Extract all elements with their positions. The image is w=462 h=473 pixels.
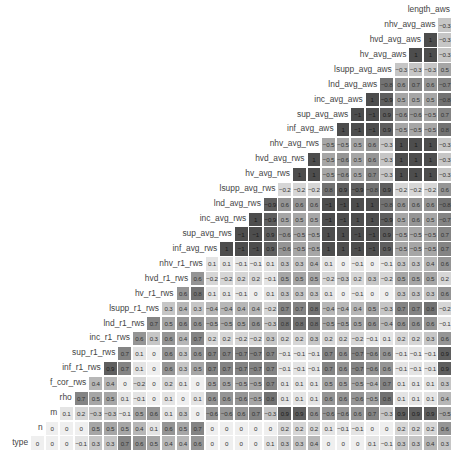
heatmap-cell: 0.6 xyxy=(307,197,322,212)
heatmap-cell: 0.3 xyxy=(307,331,322,346)
heatmap-cell: −0.1 xyxy=(394,346,409,361)
heatmap-cell: 0.4 xyxy=(423,435,438,450)
heatmap-cell: 1 xyxy=(394,137,409,152)
heatmap-cell: 0.7 xyxy=(205,361,220,376)
heatmap-cell: 0.3 xyxy=(161,301,176,316)
heatmap-cell: 0.2 xyxy=(292,421,307,436)
heatmap-cell: 0.3 xyxy=(408,435,423,450)
heatmap-cell: −0.9 xyxy=(263,197,278,212)
heatmap-cell: 0 xyxy=(248,435,263,450)
heatmap-cell: 0 xyxy=(146,376,161,391)
heatmap-cell: −0.5 xyxy=(248,376,263,391)
heatmap-cell: 0.8 xyxy=(263,391,278,406)
heatmap-cell: −0.1 xyxy=(408,361,423,376)
heatmap-cell: 0.5 xyxy=(408,92,423,107)
heatmap-cell: −1 xyxy=(248,226,263,241)
heatmap-cell: 0.7 xyxy=(379,376,394,391)
heatmap-cell: 0 xyxy=(263,421,278,436)
heatmap-cell: 0.4 xyxy=(307,435,322,450)
heatmap-cell: −0.5 xyxy=(234,376,249,391)
heatmap-cell: 0.2 xyxy=(234,271,249,286)
heatmap-cell: 0.1 xyxy=(394,376,409,391)
heatmap-cell: 0.5 xyxy=(292,212,307,227)
heatmap-cell: 1 xyxy=(394,167,409,182)
heatmap-cell: −0.3 xyxy=(336,271,351,286)
heatmap-cell: 1 xyxy=(350,212,365,227)
heatmap-cell: 0.9 xyxy=(277,406,292,421)
heatmap-cell: −1 xyxy=(365,226,380,241)
heatmap-cell: 1 xyxy=(336,241,351,256)
heatmap-cell: 0 xyxy=(336,286,351,301)
heatmap-cell: 0.3 xyxy=(176,346,191,361)
heatmap-cell: 0.3 xyxy=(292,435,307,450)
heatmap-cell: −0.1 xyxy=(336,421,351,436)
heatmap-cell: −0.5 xyxy=(248,391,263,406)
heatmap-cell: −1 xyxy=(234,226,249,241)
heatmap-cell: 0.2 xyxy=(437,271,452,286)
heatmap-cell: 0.1 xyxy=(146,421,161,436)
heatmap-cell: 0.1 xyxy=(263,256,278,271)
heatmap-cell: −0.1 xyxy=(365,331,380,346)
heatmap-cell: 1 xyxy=(408,47,423,62)
heatmap-cell: −0.1 xyxy=(307,361,322,376)
heatmap-cell: −1 xyxy=(321,197,336,212)
row-label: lnd_r1_rws xyxy=(103,316,144,331)
heatmap-cell: −0.5 xyxy=(321,137,336,152)
heatmap-cell: 0.7 xyxy=(277,301,292,316)
heatmap-cell: −0.5 xyxy=(408,226,423,241)
heatmap-cell: 0.1 xyxy=(321,421,336,436)
heatmap-cell: −0.4 xyxy=(219,301,234,316)
heatmap-cell: 0 xyxy=(365,421,380,436)
heatmap-cell: 0.3 xyxy=(394,286,409,301)
heatmap-cell: −0.5 xyxy=(307,241,322,256)
heatmap-cell: −0.1 xyxy=(234,286,249,301)
heatmap-cell: 0.2 xyxy=(292,331,307,346)
heatmap-cell: −0.2 xyxy=(234,331,249,346)
heatmap-cell: 0.2 xyxy=(161,376,176,391)
heatmap-cell: −0.2 xyxy=(423,182,438,197)
heatmap-cell: −0.4 xyxy=(336,301,351,316)
heatmap-cell: −0.5 xyxy=(321,167,336,182)
heatmap-cell: 0 xyxy=(190,406,205,421)
heatmap-cell: 0 xyxy=(379,286,394,301)
heatmap-cell: −0.3 xyxy=(379,167,394,182)
heatmap-cell: 0.2 xyxy=(394,331,409,346)
heatmap-cell: 0.6 xyxy=(437,182,452,197)
heatmap-cell: −0.5 xyxy=(307,226,322,241)
heatmap-cell: −0.2 xyxy=(205,271,220,286)
heatmap-cell: 0.9 xyxy=(408,406,423,421)
heatmap-cell: −0.7 xyxy=(248,346,263,361)
heatmap-cell: 0.2 xyxy=(394,421,409,436)
heatmap-cell: 0.7 xyxy=(263,361,278,376)
row-label: inf_avg_aws xyxy=(287,121,334,136)
row-label: hvd_avg_rws xyxy=(255,151,304,166)
heatmap-cell: −0.5 xyxy=(336,316,351,331)
heatmap-cell: 0.6 xyxy=(321,391,336,406)
heatmap-cell: 0 xyxy=(336,435,351,450)
heatmap-cell: −0.2 xyxy=(350,331,365,346)
heatmap-cell: −0.9 xyxy=(379,212,394,227)
heatmap-cell: 0.6 xyxy=(190,271,205,286)
heatmap-cell: 0 xyxy=(248,421,263,436)
heatmap-cell: 0.2 xyxy=(277,421,292,436)
heatmap-cell: 0.5 xyxy=(350,167,365,182)
heatmap-cell: −1 xyxy=(350,226,365,241)
heatmap-cell: 0.5 xyxy=(350,152,365,167)
heatmap-cell: −0.1 xyxy=(408,346,423,361)
heatmap-cell: −0.1 xyxy=(379,256,394,271)
heatmap-cell: 0.1 xyxy=(205,256,220,271)
heatmap-cell: 0.8 xyxy=(379,391,394,406)
heatmap-cell: 0.1 xyxy=(205,286,220,301)
heatmap-cell: 0.2 xyxy=(336,331,351,346)
heatmap-cell: 0.6 xyxy=(176,316,191,331)
heatmap-cell: 0.6 xyxy=(132,331,147,346)
row-label: inf_r1_rws xyxy=(62,360,101,375)
heatmap-cell: 0.6 xyxy=(394,77,409,92)
heatmap-cell: −0.5 xyxy=(336,137,351,152)
heatmap-cell: 0.1 xyxy=(408,376,423,391)
heatmap-cell: −0.1 xyxy=(234,256,249,271)
heatmap-cell: 0.6 xyxy=(161,361,176,376)
heatmap-cell: −0.7 xyxy=(350,361,365,376)
heatmap-cell: −0.3 xyxy=(437,152,452,167)
heatmap-cell: 0.3 xyxy=(394,256,409,271)
